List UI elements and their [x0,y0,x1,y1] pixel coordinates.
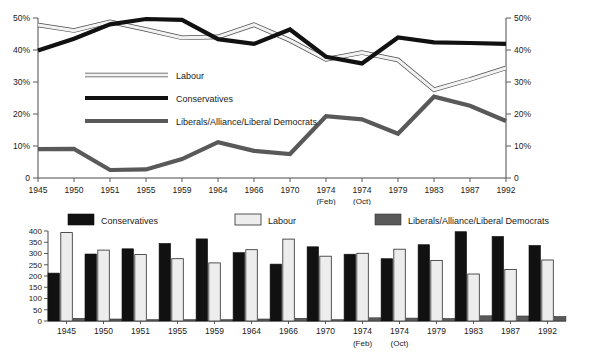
bar-labour [61,233,73,321]
bar-liberals [110,319,122,321]
bar-chart-x-label: 1992 [538,326,557,336]
line-chart-x-label: 1970 [281,185,300,195]
bar-liberals [258,319,270,321]
bar-conservatives [159,243,171,321]
bar-chart-x-label: 1950 [94,326,113,336]
bar-chart-x-label: 1955 [168,326,187,336]
line-chart-y-tick-label-left: 20% [13,109,30,119]
labour-line [38,22,506,90]
line-chart-x-labels: 194519501951195519591964196619701974(Feb… [29,185,516,205]
bar-chart-x-label: 1951 [131,326,150,336]
line-chart-x-label: 1992 [497,185,516,195]
bar-conservatives [307,247,319,321]
line-chart-x-sublabel: (Feb) [316,197,335,205]
bar-labour [468,274,480,321]
bar-liberals [185,320,197,321]
bar-labour [357,253,369,321]
line-chart-x-label: 1974 [353,185,372,195]
bar-conservatives [381,259,393,321]
bar-chart-y-tick-label: 100 [29,294,43,303]
line-legend-label-liberals: Liberals/Alliance/Liberal Democrats [176,117,318,127]
bar-conservatives [344,254,356,321]
bar-chart-x-sublabel: (Oct) [391,339,409,348]
line-legend-label-labour: Labour [176,71,204,81]
bar-chart-svg: ConservativesLabourLiberals/Alliance/Lib… [0,205,589,357]
line-legend-label-conservatives: Conservatives [176,94,234,104]
bar-liberals [480,316,492,321]
chart-page: 50%50%40%40%30%30%20%20%10%10%00 LabourC… [0,0,589,357]
line-chart-x-label: 1950 [65,185,84,195]
bar-chart-x-label: 1970 [316,326,335,336]
bar-chart-x-label: 1966 [279,326,298,336]
line-chart-x-label: 1945 [29,185,48,195]
line-chart-y-tick-label-right: 20% [514,109,531,119]
line-chart-y-tick-label-right: 30% [514,77,531,87]
bar-conservatives [233,253,245,321]
conservatives-bar-swatch [68,214,94,225]
bar-labour [172,259,184,321]
bar-liberals [369,318,381,321]
line-chart-y-tick-label-right: 0 [514,173,519,183]
bar-chart-y-tick-label: 300 [29,249,43,258]
bar-chart-y-tick-label: 250 [29,261,43,270]
bar-chart-y-tick-label: 200 [29,272,43,281]
line-chart-x-label: 1987 [461,185,480,195]
bar-labour [246,250,257,321]
bar-chart-y-tick-label: 0 [38,317,43,326]
line-chart-x-label: 1955 [137,185,156,195]
line-chart-x-label: 1959 [173,185,192,195]
bar-conservatives [455,232,467,321]
bar-liberals [554,317,566,322]
bar-chart-bars [48,232,566,321]
bar-chart-y-tick-label: 350 [29,238,43,247]
bar-chart-x-label: 1987 [501,326,520,336]
bar-chart-panel: ConservativesLabourLiberals/Alliance/Lib… [0,205,589,357]
conservatives-line [38,19,506,63]
line-chart-y-tick-label-left: 10% [13,141,30,151]
bar-conservatives [122,249,134,321]
line-chart-x-label: 1979 [389,185,408,195]
bar-conservatives [270,264,282,321]
line-chart-y-tick-label-right: 10% [514,141,531,151]
bar-conservatives [196,239,208,321]
bar-chart-y-tick-label: 50 [33,306,42,315]
bar-chart-x-label: 1983 [464,326,483,336]
bar-labour [209,263,221,321]
bar-legend-label-labour: Labour [268,216,296,226]
line-chart-x-label: 1983 [425,185,444,195]
bar-liberals [518,316,530,321]
bar-labour [283,239,295,321]
bar-chart-x-label: 1979 [427,326,446,336]
bar-legend-label-liberals: Liberals/Alliance/Liberal Democrats [408,216,550,226]
bar-labour [135,255,147,321]
bar-labour [320,256,332,321]
line-chart-x-label: 1966 [245,185,264,195]
bar-chart-x-label: 1974 [353,326,372,336]
bar-labour [98,250,110,321]
bar-labour [394,249,406,321]
bar-chart-x-label: 1974 [390,326,409,336]
line-chart-series [38,19,506,170]
bar-liberals [332,320,344,321]
line-chart-x-sublabel: (Oct) [353,197,371,205]
bar-chart-x-label: 1964 [242,326,261,336]
bar-conservatives [85,254,97,321]
liberals-line [38,97,506,170]
bar-liberals [147,320,159,321]
labour-bar-swatch [235,214,261,225]
liberals-bar-swatch [375,214,401,225]
bar-chart-x-labels: 194519501951195519591964196619701974(Feb… [57,326,557,348]
line-chart-panel: 50%50%40%40%30%30%20%20%10%10%00 LabourC… [0,0,589,205]
bar-chart-x-label: 1945 [57,326,76,336]
line-chart-y-tick-label-left: 50% [13,13,30,23]
line-chart-y-tick-label-left: 40% [13,45,30,55]
bar-chart-x-label: 1959 [205,326,224,336]
bar-chart-x-sublabel: (Feb) [353,339,372,348]
line-chart-x-label: 1964 [209,185,228,195]
bar-conservatives [529,245,541,321]
line-chart-y-tick-label-left: 30% [13,77,30,87]
bar-liberals [73,318,85,321]
bar-legend-label-conservatives: Conservatives [101,216,159,226]
bar-labour [542,260,554,321]
bar-conservatives [492,236,504,321]
